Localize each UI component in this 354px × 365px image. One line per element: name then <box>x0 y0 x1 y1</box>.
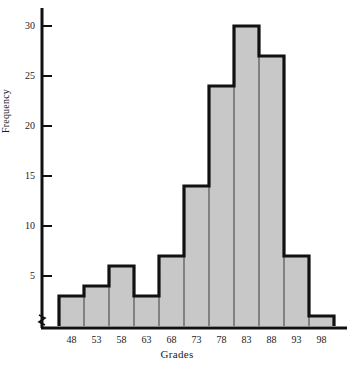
plot-area <box>0 0 354 365</box>
histogram-bar <box>134 296 159 326</box>
bars-group <box>59 26 334 326</box>
x-tick-label: 83 <box>234 335 260 345</box>
x-tick-label: 48 <box>59 335 85 345</box>
x-tick-label: 53 <box>84 335 110 345</box>
x-tick-label: 73 <box>184 335 210 345</box>
y-tick-label: 5 <box>9 271 35 281</box>
y-tick-label: 30 <box>9 21 35 31</box>
y-tick-label: 10 <box>9 221 35 231</box>
y-tick-label: 25 <box>9 71 35 81</box>
x-tick-label: 78 <box>209 335 235 345</box>
histogram-bar <box>59 296 84 326</box>
histogram-bar <box>234 26 259 326</box>
x-tick-label: 63 <box>134 335 160 345</box>
axis-break-icon <box>39 315 45 325</box>
histogram-chart: Frequency Grades 51015202530 48535863687… <box>0 0 354 365</box>
x-tick-label: 88 <box>259 335 285 345</box>
histogram-bar <box>159 256 184 326</box>
axis-break-zigzag <box>39 315 45 325</box>
x-tick-label: 68 <box>159 335 185 345</box>
y-tick-label: 20 <box>9 121 35 131</box>
histogram-bar <box>184 186 209 326</box>
histogram-bar <box>84 286 109 326</box>
histogram-bar <box>109 266 134 326</box>
y-tick-label: 15 <box>9 171 35 181</box>
x-tick-label: 98 <box>309 335 335 345</box>
histogram-bar <box>259 56 284 326</box>
histogram-bar <box>284 256 309 326</box>
histogram-bar <box>209 86 234 326</box>
x-tick-label: 93 <box>284 335 310 345</box>
x-tick-label: 58 <box>109 335 135 345</box>
